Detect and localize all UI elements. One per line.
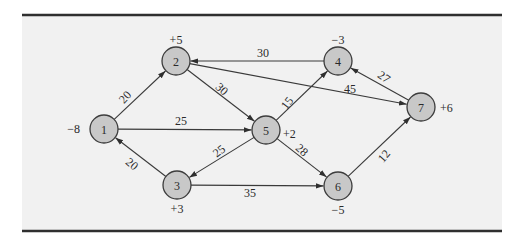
edge-cost-4-2: 30	[257, 46, 269, 60]
node-supply-label: −8	[67, 122, 80, 136]
node-label: 4	[335, 55, 341, 69]
edge-cost-2-7: 45	[344, 82, 356, 96]
node-label: 1	[101, 123, 107, 137]
node-supply-label: +6	[440, 101, 453, 115]
node-label: 3	[174, 179, 180, 193]
node-label: 6	[335, 180, 341, 194]
node-supply-label: +3	[171, 202, 184, 216]
network-flow-diagram: 202520303045152528352712 1−82+53+34−35+2…	[0, 0, 521, 245]
edge-cost-3-6: 35	[244, 186, 256, 200]
node-supply-label: −5	[332, 203, 345, 217]
node-label: 7	[418, 101, 424, 115]
node-label: 2	[173, 55, 179, 69]
node-label: 5	[263, 124, 269, 138]
node-supply-label: +5	[170, 33, 183, 47]
node-supply-label: +2	[283, 127, 296, 141]
edge-cost-1-5: 25	[175, 114, 187, 128]
node-supply-label: −3	[332, 33, 345, 47]
